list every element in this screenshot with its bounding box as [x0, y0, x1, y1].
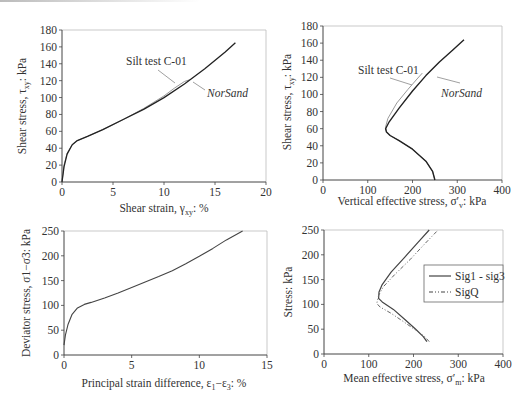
x-tick-label: 15 [261, 359, 273, 371]
legend-label-sigq: SigQ [455, 286, 479, 299]
tr-leader-silt [390, 78, 412, 85]
y-tick-label: 0 [312, 174, 318, 186]
tl-annotation-norsand: NorSand [206, 87, 248, 99]
y-tick-label: 140 [301, 54, 319, 66]
bl-y-axis-label: Deviator stress, σ1−σ3: kPa [20, 229, 33, 357]
x-tick-label: 200 [405, 358, 423, 370]
tr-x-axis-label: Vertical effective stress, σ′v: kPa [338, 195, 487, 210]
series-line [62, 80, 190, 182]
tr-annotation-norsand: NorSand [440, 87, 482, 99]
x-tick-label: 100 [360, 358, 378, 370]
y-tick-label: 20 [307, 157, 319, 169]
tl-y-axis-label: Shear stress, τxy: kPa [16, 58, 31, 154]
y-tick-label: 120 [40, 75, 58, 87]
y-tick-label: 160 [301, 37, 319, 49]
y-tick-label: 150 [42, 275, 60, 287]
x-tick-label: 300 [450, 358, 468, 370]
y-tick-label: 250 [42, 225, 60, 237]
x-tick-label: 5 [129, 359, 135, 371]
y-tick-label: 40 [307, 140, 319, 152]
y-tick-label: 100 [301, 88, 319, 100]
x-tick-label: 400 [493, 184, 511, 196]
y-tick-label: 80 [46, 108, 58, 120]
tl-leader-silt [158, 70, 175, 83]
y-tick-label: 150 [302, 274, 320, 286]
tr-annotation-silt-test: Silt test C-01 [358, 64, 419, 76]
y-tick-label: 0 [313, 348, 319, 360]
figure-canvas: 05101520020406080100120140160180 Shear s… [0, 0, 530, 407]
y-tick-label: 20 [46, 159, 58, 171]
y-tick-label: 0 [51, 176, 57, 188]
y-tick-label: 180 [40, 24, 58, 36]
br-legend: Sig1 - sig3 SigQ [424, 265, 505, 302]
legend-label-sig1-sig3: Sig1 - sig3 [455, 270, 505, 283]
bl-x-axis-label: Principal strain difference, ε1−ε3: % [82, 377, 247, 392]
y-tick-label: 120 [301, 71, 319, 83]
panel-deviator-stress-vs-strain: 051015050100150200250 [42, 225, 273, 371]
y-tick-label: 100 [40, 92, 58, 104]
y-tick-label: 250 [302, 224, 320, 236]
y-tick-label: 60 [307, 123, 319, 135]
y-tick-label: 100 [42, 299, 60, 311]
x-tick-label: 10 [194, 359, 206, 371]
x-tick-label: 20 [260, 186, 272, 198]
y-tick-label: 60 [46, 125, 58, 137]
y-tick-label: 180 [301, 20, 319, 32]
y-tick-label: 200 [42, 250, 60, 262]
x-tick-label: 10 [158, 186, 170, 198]
series-line [64, 231, 243, 345]
y-tick-label: 0 [53, 349, 59, 361]
tr-leader-norsand [437, 77, 460, 83]
tl-leader-norsand [193, 82, 205, 90]
y-tick-label: 160 [40, 41, 58, 53]
x-tick-label: 5 [110, 186, 116, 198]
y-tick-label: 50 [48, 324, 60, 336]
x-tick-label: 0 [59, 186, 65, 198]
x-tick-label: 400 [494, 358, 512, 370]
y-tick-label: 200 [302, 249, 320, 261]
tl-annotation-silt-test: Silt test C-01 [126, 55, 187, 67]
panel-shear-stress-vs-strain: 05101520020406080100120140160180 [40, 24, 272, 198]
br-x-axis-label: Mean effective stress, σ′m: kPa [343, 372, 485, 387]
br-y-axis-label: Stress: kPa [282, 267, 294, 318]
y-tick-label: 80 [307, 106, 319, 118]
series-line [386, 40, 464, 180]
y-tick-label: 100 [302, 298, 320, 310]
tl-x-axis-label: Shear strain, γxy: % [119, 202, 209, 217]
x-tick-label: 0 [321, 358, 327, 370]
x-tick-label: 0 [320, 184, 326, 196]
tr-y-axis-label: Shear stress, τxy: kPa [281, 54, 296, 150]
x-tick-label: 15 [209, 186, 221, 198]
y-tick-label: 40 [46, 142, 58, 154]
y-tick-label: 140 [40, 58, 58, 70]
y-tick-label: 50 [308, 323, 320, 335]
panel-shear-stress-vs-vertical-stress: 0100200300400020406080100120140160180 [301, 20, 511, 196]
x-tick-label: 0 [61, 359, 67, 371]
